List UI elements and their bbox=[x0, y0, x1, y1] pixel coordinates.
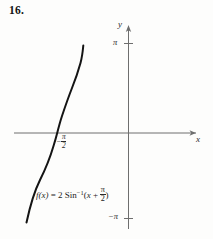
function-plus: + bbox=[93, 190, 98, 200]
function-equals: = bbox=[51, 190, 56, 200]
function-exponent: −1 bbox=[77, 189, 84, 196]
x-intercept-annotation: −π2 bbox=[56, 133, 66, 149]
function-operator: Sin bbox=[65, 190, 77, 200]
y-tick-pi-label: π bbox=[113, 37, 117, 47]
intercept-denominator: 2 bbox=[61, 141, 66, 150]
function-close-paren: ) bbox=[106, 190, 109, 200]
function-coefficient: 2 bbox=[58, 190, 63, 200]
function-equation-label: f(x) = 2 Sin−1(x + π2) bbox=[36, 186, 109, 204]
intercept-numerator: π bbox=[61, 133, 66, 141]
function-argument-x: x bbox=[87, 190, 91, 200]
x-axis-label: x bbox=[196, 134, 200, 144]
y-axis-label: y bbox=[118, 19, 122, 29]
figure-page: 16. y x π −π −π2 f(x) = 2 Sin−1(x + π2) bbox=[0, 0, 213, 239]
function-lhs: f(x) bbox=[36, 190, 49, 200]
intercept-fraction: π2 bbox=[61, 133, 66, 149]
y-tick-neg-pi-label: −π bbox=[108, 211, 118, 221]
